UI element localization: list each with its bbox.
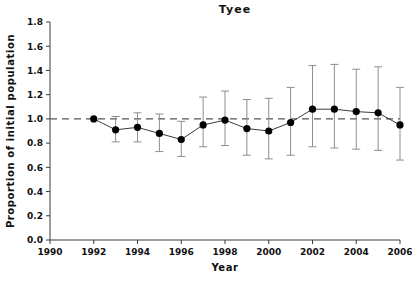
chart-canvas: Tyee0.00.20.40.60.81.01.21.41.61.8199019… <box>0 0 412 281</box>
data-point-marker <box>221 117 228 124</box>
data-point-marker <box>243 125 250 132</box>
x-tick-label: 1998 <box>212 247 237 257</box>
chart-figure: Tyee0.00.20.40.60.81.01.21.41.61.8199019… <box>0 0 412 281</box>
x-axis-title: Year <box>210 262 238 273</box>
x-tick-label: 1994 <box>125 247 150 257</box>
y-tick-label: 1.8 <box>27 17 43 27</box>
data-point-marker <box>331 106 338 113</box>
y-tick-label: 0.2 <box>27 211 43 221</box>
data-point-marker <box>90 115 97 122</box>
data-point-marker <box>353 108 360 115</box>
data-point-marker <box>156 130 163 137</box>
x-tick-label: 1992 <box>81 247 106 257</box>
y-tick-label: 0.4 <box>27 187 43 197</box>
data-point-marker <box>309 106 316 113</box>
data-point-marker <box>178 136 185 143</box>
x-tick-label: 1990 <box>37 247 62 257</box>
x-tick-label: 1996 <box>169 247 194 257</box>
data-point-marker <box>375 109 382 116</box>
data-point-marker <box>265 127 272 134</box>
y-tick-label: 0.6 <box>27 163 43 173</box>
data-point-marker <box>134 124 141 131</box>
x-tick-label: 2004 <box>344 247 369 257</box>
y-tick-label: 0.8 <box>27 138 43 148</box>
data-point-marker <box>287 119 294 126</box>
y-tick-label: 1.6 <box>27 42 43 52</box>
y-axis-title: Proportion of initial population <box>5 34 16 228</box>
data-point-marker <box>396 121 403 128</box>
chart-title: Tyee <box>219 3 251 16</box>
y-tick-label: 1.4 <box>27 66 43 76</box>
data-point-marker <box>112 126 119 133</box>
data-point-marker <box>200 121 207 128</box>
y-tick-label: 0.0 <box>27 235 43 245</box>
x-tick-label: 2002 <box>300 247 325 257</box>
y-tick-label: 1.0 <box>27 114 43 124</box>
x-tick-label: 2000 <box>256 247 281 257</box>
x-tick-label: 2006 <box>387 247 412 257</box>
y-tick-label: 1.2 <box>27 90 43 100</box>
